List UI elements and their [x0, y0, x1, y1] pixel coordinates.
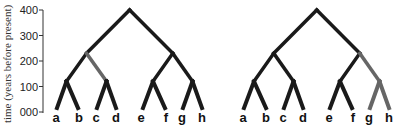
leaf-label-a: a — [52, 110, 60, 125]
axis-tick-label: 300 — [20, 30, 38, 42]
branch-abcd-ab — [67, 53, 87, 81]
branch-ab-b — [67, 81, 79, 108]
branch-gh-g — [183, 81, 193, 108]
leaf-label-d: d — [112, 110, 120, 125]
branch-ab-a — [244, 81, 254, 108]
axis-tick-label: 100 — [20, 81, 38, 93]
leaf-label-b: b — [262, 110, 270, 125]
branch-cd-c — [284, 81, 294, 108]
leaf-label-g: g — [365, 110, 373, 125]
phylogeny-figure: time (years before present) 400300200100… — [0, 0, 396, 128]
leaf-label-e: e — [325, 110, 332, 125]
axis-tick-label: 400 — [20, 4, 38, 16]
leaf-label-a: a — [239, 110, 247, 125]
leaf-label-g: g — [178, 110, 186, 125]
leaf-label-b: b — [75, 110, 83, 125]
axis-tick-label: 000 — [20, 106, 38, 118]
leaf-label-f: f — [164, 110, 169, 125]
branch-root-abcd — [274, 10, 317, 53]
axis-title: time (years before present) — [1, 5, 14, 124]
branch-ef-f — [153, 81, 165, 108]
leaf-label-d: d — [299, 110, 307, 125]
branch-ab-b — [254, 81, 266, 108]
leaf-label-c: c — [279, 110, 286, 125]
branch-gh-h-highlighted — [380, 81, 390, 108]
branch-efgh-gh — [173, 53, 193, 81]
branch-efgh-ef — [340, 53, 360, 81]
time-axis: time (years before present) 400300200100… — [1, 4, 43, 123]
leaf-label-h: h — [198, 110, 206, 125]
branch-ab-a — [57, 81, 67, 108]
branch-ef-e — [143, 81, 153, 108]
leaf-label-c: c — [92, 110, 99, 125]
branch-cd-d — [107, 81, 117, 108]
branch-root-abcd — [87, 10, 130, 53]
branch-abcd-cd — [274, 53, 294, 81]
leaf-label-e: e — [137, 110, 144, 125]
branch-efgh-ef — [153, 53, 173, 81]
branch-ef-f — [340, 81, 352, 108]
branch-gh-g-highlighted — [370, 81, 380, 108]
branch-cd-c — [97, 81, 107, 108]
branch-root-efgh — [130, 10, 173, 53]
tree-2: abcdefgh — [239, 10, 393, 125]
axis-tick-label: 200 — [20, 55, 38, 67]
tree-1: abcdefgh — [52, 10, 206, 125]
branch-abcd-cd-highlighted — [87, 53, 107, 81]
branch-ef-e — [330, 81, 340, 108]
leaf-label-f: f — [351, 110, 356, 125]
branch-cd-d — [294, 81, 304, 108]
branch-abcd-ab — [254, 53, 274, 81]
branch-gh-h — [193, 81, 203, 108]
branch-efgh-gh-highlighted — [360, 53, 380, 81]
leaf-label-h: h — [385, 110, 393, 125]
branch-root-efgh — [317, 10, 360, 53]
